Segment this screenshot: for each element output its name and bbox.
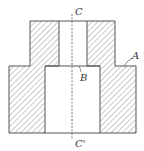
- cross-section-diagram: C C' A B: [0, 0, 144, 151]
- label-c-prime: C': [75, 138, 85, 149]
- label-b: B: [79, 72, 87, 83]
- leader-line-a: [124, 58, 132, 66]
- label-a: A: [131, 50, 139, 61]
- right-hatched-section: [87, 21, 136, 133]
- left-hatched-section: [9, 21, 59, 133]
- label-c: C: [75, 6, 83, 17]
